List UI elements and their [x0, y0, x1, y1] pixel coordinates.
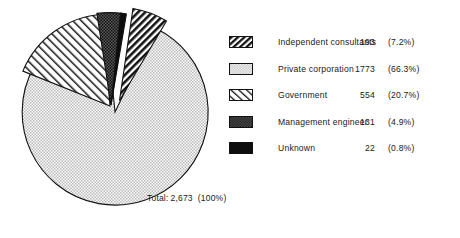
legend-percent: (0.8%) — [388, 143, 415, 153]
legend-swatch-back-diagonal-hatch-dark-icon — [229, 36, 253, 48]
legend-percent: (7.2%) — [388, 37, 415, 47]
legend-row-management-engineer: Management engineer 131 (4.9%) — [229, 116, 457, 129]
chart-legend: Independent consultants 193 (7.2%) Priva… — [229, 36, 457, 169]
legend-count: 193 — [347, 37, 375, 47]
legend-percent: (20.7%) — [388, 90, 420, 100]
total-percent: (100%) — [198, 193, 227, 203]
pie-total-label: Total:2,673(100%) — [147, 193, 226, 203]
legend-row-unknown: Unknown 22 (0.8%) — [229, 142, 457, 155]
legend-label: Private corporation — [278, 64, 354, 74]
legend-row-government: Government 554 (20.7%) — [229, 89, 457, 102]
legend-count: 22 — [347, 143, 375, 153]
legend-row-independent-consultants: Independent consultants 193 (7.2%) — [229, 36, 457, 49]
legend-percent: (66.3%) — [388, 64, 420, 74]
legend-swatch-solid-black-icon — [229, 142, 253, 154]
legend-swatch-forward-diagonal-lines-icon — [229, 89, 253, 101]
legend-row-private-corporation: Private corporation 1773 (66.3%) — [229, 63, 457, 76]
legend-swatch-checker-dots-dark-icon — [229, 116, 253, 128]
legend-label: Unknown — [278, 143, 315, 153]
legend-label: Government — [278, 90, 327, 100]
legend-count: 1773 — [347, 64, 375, 74]
legend-count: 131 — [347, 117, 375, 127]
total-caption: Total: — [147, 193, 169, 203]
pie-chart-figure: Total:2,673(100%) Independent consultant… — [0, 0, 460, 238]
legend-percent: (4.9%) — [388, 117, 415, 127]
legend-swatch-fine-dots-light-icon — [229, 63, 253, 75]
legend-count: 554 — [347, 90, 375, 100]
total-value: 2,673 — [171, 193, 193, 203]
